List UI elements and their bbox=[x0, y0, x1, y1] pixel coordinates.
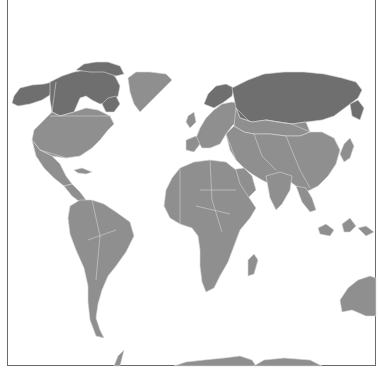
region-uk bbox=[186, 112, 196, 128]
region-usa bbox=[32, 108, 114, 158]
region-antarctica-a bbox=[174, 356, 256, 366]
world-map bbox=[0, 0, 378, 368]
land-layer bbox=[12, 62, 376, 366]
region-southeast-asia bbox=[296, 186, 316, 212]
region-antarctic-peninsula bbox=[114, 350, 124, 366]
region-central-america bbox=[64, 184, 86, 202]
region-madagascar bbox=[248, 254, 258, 276]
region-new-guinea bbox=[358, 226, 374, 236]
region-india bbox=[266, 172, 292, 210]
region-cuba bbox=[74, 168, 92, 174]
region-antarctica-b bbox=[254, 358, 322, 366]
region-alaska bbox=[12, 82, 52, 106]
region-indonesia bbox=[318, 224, 334, 236]
region-russia-siberia bbox=[232, 72, 362, 124]
region-greenland bbox=[128, 72, 172, 112]
region-japan bbox=[340, 138, 354, 162]
region-kamchatka bbox=[350, 100, 364, 120]
region-australia bbox=[340, 276, 376, 316]
region-borneo bbox=[342, 218, 356, 232]
region-south-america bbox=[68, 200, 134, 338]
